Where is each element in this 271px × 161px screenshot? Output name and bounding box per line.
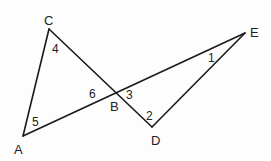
vertex-label-e: E	[250, 25, 259, 40]
angle-label-1: 1	[208, 51, 215, 65]
angle-label-5: 5	[32, 115, 39, 129]
vertex-label-a: A	[14, 142, 23, 157]
angle-label-3: 3	[126, 88, 133, 102]
vertex-label-b: B	[110, 99, 119, 114]
vertex-label-c: C	[44, 13, 53, 28]
segment-de	[152, 33, 245, 127]
diagram-canvas: A B C D E 1 2 3 4 5 6	[0, 0, 271, 161]
angle-label-6: 6	[89, 87, 96, 101]
angle-label-4: 4	[52, 42, 59, 56]
segment-cd	[49, 29, 152, 127]
vertex-label-d: D	[151, 133, 160, 148]
angle-label-2: 2	[146, 109, 153, 123]
geometry-diagram: A B C D E 1 2 3 4 5 6	[0, 0, 271, 161]
